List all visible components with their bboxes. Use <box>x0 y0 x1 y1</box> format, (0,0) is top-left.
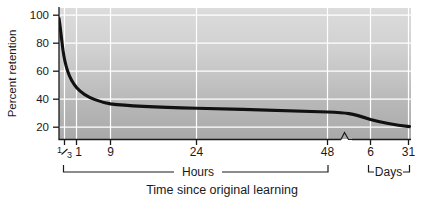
x-tick-label-1: 1 <box>75 145 82 159</box>
x-tick-label-third-denominator: 3 <box>67 150 72 160</box>
x-axis-caption: Time since original learning <box>146 183 298 197</box>
plot-area-background <box>59 8 411 139</box>
x-tick-label-9: 9 <box>107 145 114 159</box>
y-tick-label-60: 60 <box>36 65 49 77</box>
x-tick-label-48: 48 <box>321 145 335 159</box>
y-tick-label-40: 40 <box>36 93 49 105</box>
x-tick-label-6d: 6 <box>367 145 374 159</box>
hours-group-label: Hours <box>182 165 214 179</box>
x-tick-label-31d: 31 <box>402 145 416 159</box>
chart-svg: 100 80 60 40 20 Percent retention 1 3 1 … <box>0 0 425 201</box>
forgetting-curve-figure: 100 80 60 40 20 Percent retention 1 3 1 … <box>0 0 425 201</box>
days-group-label: Days <box>375 165 402 179</box>
y-tick-label-100: 100 <box>30 9 49 21</box>
x-tick-label-third-numerator: 1 <box>57 145 62 155</box>
y-axis-title: Percent retention <box>6 30 18 118</box>
y-tick-label-20: 20 <box>36 121 49 133</box>
x-tick-label-24: 24 <box>190 145 204 159</box>
y-tick-label-80: 80 <box>36 37 49 49</box>
